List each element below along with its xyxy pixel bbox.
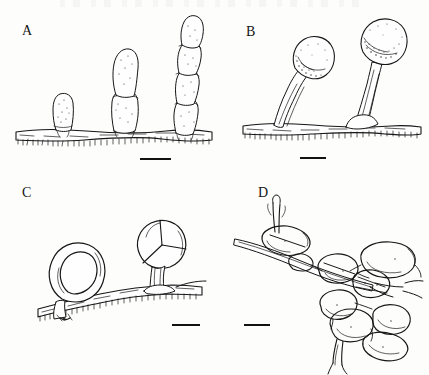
hyphal-loop-network [234,195,423,374]
conidial-chain-short [53,93,73,137]
figure-plate: A [0,0,429,375]
scale-bar-a [140,158,171,160]
substrate-hypha-b [243,123,421,140]
globose-conidium-left [274,37,334,128]
conidial-chain-medium [112,49,139,137]
conidial-chain-tall [174,16,203,140]
panel-c: C [0,175,215,375]
panel-c-drawing [0,175,215,375]
panel-a-drawing [0,0,215,175]
panel-b-drawing [215,0,429,175]
scale-bar-c [172,324,200,326]
panel-d-drawing [215,175,429,375]
three-celled-ring-face-view [137,220,186,294]
panel-b: B [215,0,429,175]
scale-bar-d [244,324,270,326]
globose-conidium-right [346,19,407,129]
panel-d: D [215,175,429,375]
scale-bar-b [300,157,326,159]
panel-a: A [0,0,215,175]
